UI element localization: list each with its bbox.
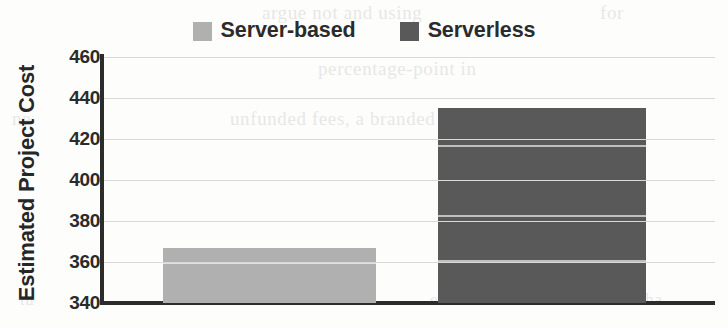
y-axis-tick-label: 340 [56,292,100,314]
bar-server-based [163,248,376,303]
scan-streak [438,145,646,147]
scan-streak [438,215,646,217]
gridline [104,180,715,181]
legend-label: Server-based [221,20,356,42]
legend-swatch-icon [400,22,419,41]
gridline [104,98,715,99]
legend-item-serverless: Serverless [400,20,536,42]
y-axis-tick-label: 360 [56,251,100,273]
gridline [104,262,715,263]
plot-area [104,57,715,303]
y-axis-tick-label: 440 [56,87,100,109]
gridline [104,139,715,140]
y-axis-tick-label: 400 [56,169,100,191]
y-axis-tick-label: 380 [56,210,100,232]
legend-swatch-icon [193,22,212,41]
legend-label: Serverless [428,20,536,42]
chart-legend: Server-based Serverless [0,14,728,48]
y-axis-tick-label: 460 [56,46,100,68]
bar-serverless [438,108,646,303]
gridline [104,57,715,58]
y-axis-tick-label: 420 [56,128,100,150]
y-axis-tick-labels: 460440420400380360340 [56,45,100,315]
gridline [104,221,715,222]
chart-page: argue not and using percentage-point in … [0,0,728,328]
chart-plot: Estimated Project Cost 46044042040038036… [0,0,728,328]
y-axis-title: Estimated Project Cost [14,52,40,314]
legend-item-server-based: Server-based [193,20,356,42]
